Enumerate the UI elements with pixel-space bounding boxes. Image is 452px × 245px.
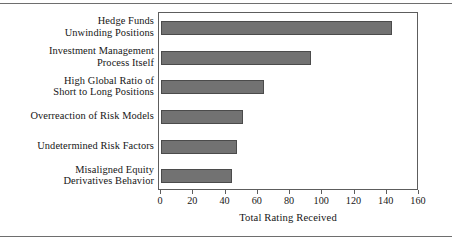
bar bbox=[161, 140, 237, 154]
x-axis-title: Total Rating Received bbox=[158, 212, 418, 223]
bar bbox=[161, 110, 243, 124]
x-axis-tick-label: 0 bbox=[157, 194, 162, 207]
x-axis-tick-label: 160 bbox=[410, 194, 425, 207]
category-label: Investment Management Process Itself bbox=[0, 45, 154, 68]
category-axis-labels: Hedge Funds Unwinding PositionsInvestmen… bbox=[0, 12, 154, 190]
category-label: Overreaction of Risk Models bbox=[0, 110, 154, 121]
x-axis-tick-label: 120 bbox=[346, 194, 361, 207]
bar bbox=[161, 80, 264, 94]
figure-top-rule bbox=[0, 3, 452, 4]
bar bbox=[161, 51, 311, 65]
x-axis-tick-label: 140 bbox=[378, 194, 393, 207]
x-axis-tick-label: 80 bbox=[284, 194, 294, 207]
x-axis-tick-label: 20 bbox=[187, 194, 197, 207]
x-axis-tick-labels: 020406080100120140160 bbox=[158, 194, 418, 210]
x-axis-tick-label: 60 bbox=[252, 194, 262, 207]
bars-container bbox=[161, 13, 417, 189]
bar bbox=[161, 169, 232, 183]
figure-bar-chart: Hedge Funds Unwinding PositionsInvestmen… bbox=[0, 0, 452, 245]
category-label: Undetermined Risk Factors bbox=[0, 140, 154, 151]
bar bbox=[161, 21, 392, 35]
category-label: Hedge Funds Unwinding Positions bbox=[0, 15, 154, 38]
category-label: High Global Ratio of Short to Long Posit… bbox=[0, 75, 154, 98]
x-axis-tick-label: 40 bbox=[219, 194, 229, 207]
plot-area bbox=[158, 12, 418, 190]
figure-bottom-rule bbox=[0, 236, 452, 237]
category-label: Misaligned Equity Derivatives Behavior bbox=[0, 164, 154, 187]
x-axis-tick-label: 100 bbox=[314, 194, 329, 207]
